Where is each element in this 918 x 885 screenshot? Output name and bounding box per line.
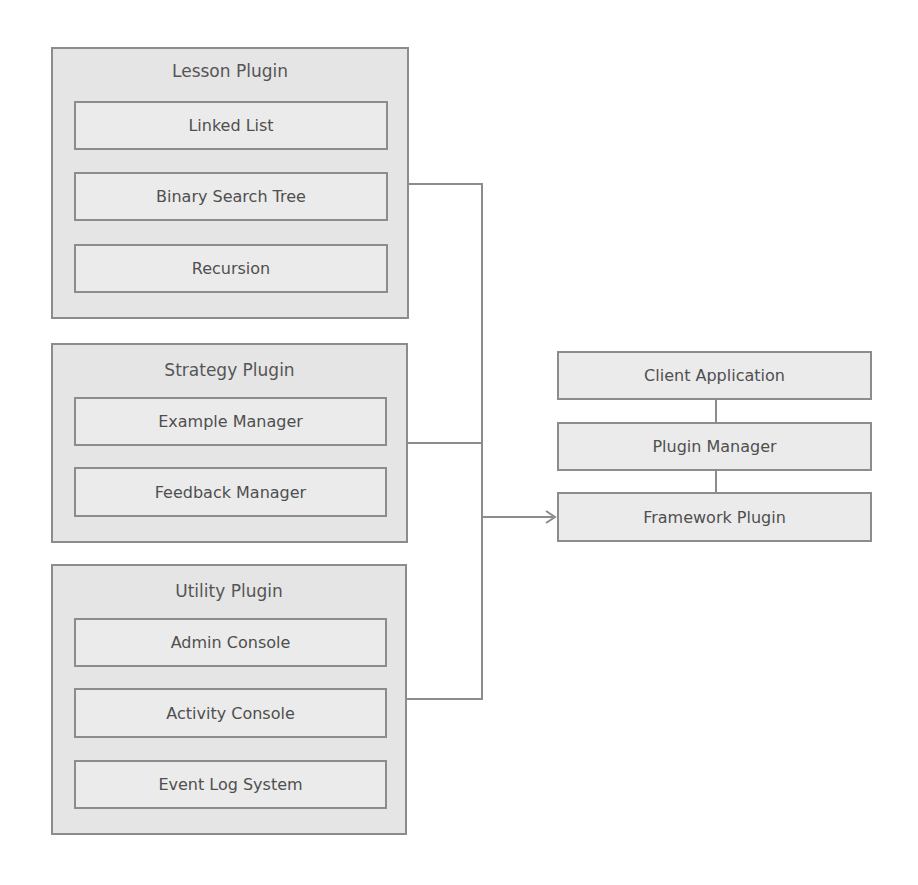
plugin-manager-framework-connector: [715, 471, 717, 492]
vertical-bus-line: [481, 183, 483, 700]
framework-plugin-node: Framework Plugin: [557, 492, 872, 542]
utility-connector: [407, 698, 483, 700]
client-application-node: Client Application: [557, 351, 872, 400]
feedback-manager-node: Feedback Manager: [74, 467, 387, 517]
recursion-node: Recursion: [74, 244, 388, 293]
framework-arrow-line: [481, 516, 553, 518]
event-log-system-node: Event Log System: [74, 760, 387, 809]
linked-list-node: Linked List: [74, 101, 388, 150]
strategy-plugin-title: Strategy Plugin: [53, 360, 406, 380]
activity-console-node: Activity Console: [74, 688, 387, 738]
lesson-connector: [408, 183, 483, 185]
binary-search-tree-node: Binary Search Tree: [74, 172, 388, 221]
utility-plugin-title: Utility Plugin: [53, 581, 405, 601]
example-manager-node: Example Manager: [74, 397, 387, 446]
client-plugin-manager-connector: [715, 400, 717, 422]
lesson-plugin-title: Lesson Plugin: [53, 61, 407, 81]
strategy-connector: [408, 442, 483, 444]
plugin-manager-node: Plugin Manager: [557, 422, 872, 471]
admin-console-node: Admin Console: [74, 618, 387, 667]
arrowhead-icon: [544, 509, 558, 525]
